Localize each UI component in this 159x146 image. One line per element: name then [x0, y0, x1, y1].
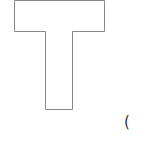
t-shape-outline: [15, 1, 105, 110]
t-section-diagram: [0, 0, 159, 146]
parenthesis-label: (: [124, 115, 130, 130]
